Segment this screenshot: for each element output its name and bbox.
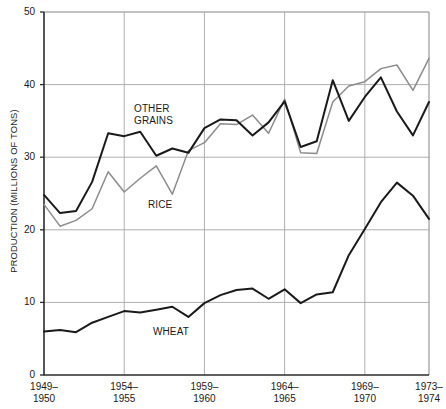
chart-container: PRODUCTION (MILLIONS OF TONS) 0102030405… [0, 0, 446, 409]
series-line-rice [44, 58, 429, 226]
series-line-wheat [44, 183, 429, 333]
plot-area [0, 0, 446, 409]
gridlines [44, 12, 429, 375]
data-series [44, 58, 429, 332]
series-line-other-grains [44, 77, 429, 213]
